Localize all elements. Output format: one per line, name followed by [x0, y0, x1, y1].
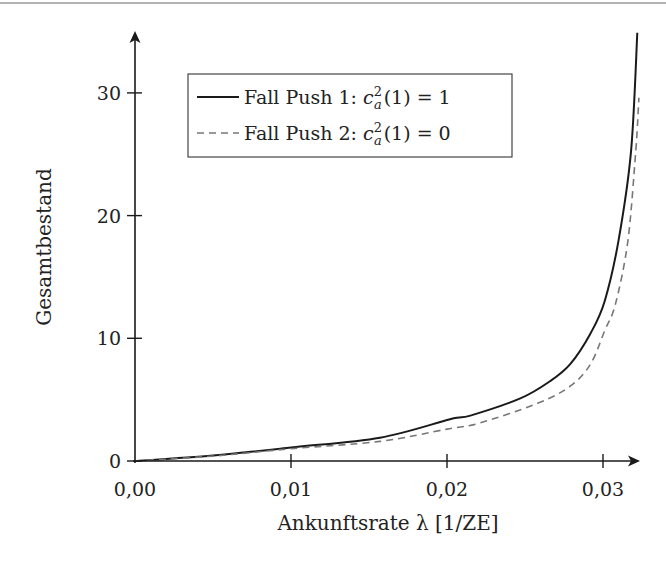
y-axis-title: Gesamtbestand — [32, 168, 56, 326]
chart: 0,000,010,020,03 0102030 Ankunftsrate λ … — [0, 0, 666, 564]
y-tick-label: 20 — [97, 205, 121, 227]
y-tick-label: 10 — [97, 327, 121, 349]
legend: Fall Push 1: c2a(1) = 1 Fall Push 2: c2a… — [188, 74, 512, 157]
legend-label-1: Fall Push 1: c2a(1) = 1 — [244, 84, 451, 112]
x-axis-title: Ankunftsrate λ [1/ZE] — [276, 511, 498, 535]
legend-label-2: Fall Push 2: c2a(1) = 0 — [244, 120, 451, 148]
y-tick-label: 0 — [109, 450, 121, 472]
line-chart: 0,000,010,020,03 0102030 Ankunftsrate λ … — [0, 0, 666, 564]
y-tick-label: 30 — [97, 82, 121, 104]
x-tick-label: 0,00 — [114, 478, 156, 500]
x-tick-label: 0,03 — [582, 478, 624, 500]
x-tick-label: 0,02 — [426, 478, 468, 500]
x-tick-label: 0,01 — [270, 478, 312, 500]
